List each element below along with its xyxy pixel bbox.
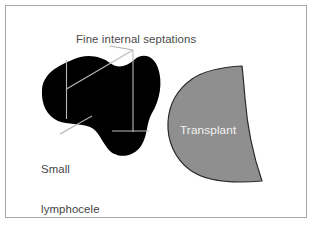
label-small-lymphocele: Small lymphocele xyxy=(41,136,100,227)
label-small-lymphocele-line1: Small xyxy=(41,163,100,176)
label-fine-internal-septations: Fine internal septations xyxy=(76,33,196,46)
label-small-lymphocele-line2: lymphocele xyxy=(41,203,100,216)
figure-root: Fine internal septations Small lymphocel… xyxy=(0,0,316,227)
label-transplant: Transplant xyxy=(180,124,236,138)
